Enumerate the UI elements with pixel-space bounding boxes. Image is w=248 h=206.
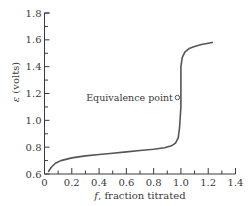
titration-curve: [49, 43, 213, 172]
equivalence-point-label: Equivalence point: [86, 92, 173, 103]
x-axis-ticks: 00.20.40.60.81.01.21.4: [41, 168, 243, 188]
y-tick-label: 1.4: [26, 61, 42, 72]
x-axis-title: f, fraction titrated: [93, 190, 186, 201]
x-tick-label: 1.0: [173, 177, 189, 188]
y-axis-unit: (volts): [10, 62, 21, 97]
y-tick-label: 1.2: [26, 88, 42, 99]
x-tick-label: 0.6: [118, 177, 134, 188]
x-tick-label: 0: [41, 177, 47, 188]
y-tick-label: 1.8: [26, 8, 42, 19]
y-tick-label: 0.6: [26, 169, 42, 180]
x-tick-label: 0.8: [146, 177, 162, 188]
y-axis-ticks: 0.60.81.01.21.41.61.8: [26, 8, 50, 180]
equivalence-point-marker: [175, 95, 179, 99]
y-tick-label: 0.8: [26, 142, 42, 153]
x-tick-label: 1.2: [200, 177, 216, 188]
y-axis-title: ε (volts): [10, 62, 21, 102]
y-tick-label: 1.0: [26, 115, 42, 126]
x-tick-label: 1.4: [228, 177, 244, 188]
x-axis-text: , fraction titrated: [98, 190, 186, 201]
x-tick-label: 0.2: [64, 177, 80, 188]
y-tick-label: 1.6: [26, 34, 42, 45]
x-tick-label: 0.4: [91, 177, 107, 188]
titration-chart: 0.60.81.01.21.41.61.8 00.20.40.60.81.01.…: [0, 0, 248, 206]
